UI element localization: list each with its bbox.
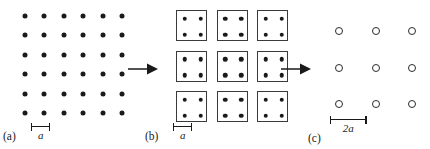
lattice-site-dot <box>182 32 187 37</box>
scale-bar-line <box>31 126 50 127</box>
lattice-site-dot <box>198 97 203 102</box>
lattice-site-dot <box>42 72 47 77</box>
lattice-site-dot <box>198 16 203 21</box>
block-variable-circle <box>408 27 416 35</box>
lattice-site-dot <box>120 91 125 96</box>
block-cell <box>217 91 248 122</box>
lattice-site-dot <box>23 14 28 19</box>
lattice-site-dot <box>263 73 268 78</box>
lattice-site-dot <box>279 16 284 21</box>
lattice-site-dot <box>182 57 187 62</box>
block-variable-circle <box>335 27 343 35</box>
panel-c-renormalized-lattice: 2a (c) <box>290 0 430 149</box>
lattice-site-dot <box>81 14 86 19</box>
lattice-site-dot <box>100 111 105 116</box>
lattice-site-dot <box>239 113 244 118</box>
lattice-site-dot <box>263 32 268 37</box>
block-cell <box>257 10 288 41</box>
lattice-site-dot <box>23 91 28 96</box>
lattice-site-dot <box>23 111 28 116</box>
scale-bar-label-c: 2a <box>330 123 367 134</box>
panel-label-b: (b) <box>145 131 158 143</box>
lattice-site-dot <box>120 111 125 116</box>
panel-a-original-lattice: a (a) <box>0 0 140 149</box>
block-variable-circle <box>335 100 343 108</box>
lattice-site-dot <box>263 97 268 102</box>
lattice-site-dot <box>263 113 268 118</box>
panel-b-blocked-lattice: a (b) <box>140 0 290 149</box>
lattice-site-dot <box>279 57 284 62</box>
lattice-site-dot <box>182 97 187 102</box>
lattice-site-dot <box>182 73 187 78</box>
lattice-site-dot <box>279 113 284 118</box>
lattice-site-dot <box>42 91 47 96</box>
block-variable-circle <box>372 64 380 72</box>
lattice-site-dot <box>120 33 125 38</box>
lattice-site-dot <box>61 33 66 38</box>
lattice-site-dot <box>81 52 86 57</box>
lattice-site-dot <box>223 32 228 37</box>
lattice-site-dot <box>81 91 86 96</box>
block-variable-circle <box>408 64 416 72</box>
lattice-site-dot <box>23 72 28 77</box>
lattice-site-dot <box>198 113 203 118</box>
lattice-site-dot <box>61 72 66 77</box>
lattice-site-dot <box>239 57 244 62</box>
lattice-site-dot <box>198 73 203 78</box>
lattice-site-dot <box>223 97 228 102</box>
block-cell <box>217 10 248 41</box>
block-variable-circle <box>408 100 416 108</box>
panel-label-c: (c) <box>308 133 321 145</box>
lattice-site-dot <box>42 52 47 57</box>
lattice-site-dot <box>81 72 86 77</box>
block-variable-circle <box>372 27 380 35</box>
panel-label-a: (a) <box>3 131 16 143</box>
lattice-site-dot <box>223 57 228 62</box>
block-cell <box>176 10 207 41</box>
lattice-site-dot <box>223 113 228 118</box>
lattice-site-dot <box>100 33 105 38</box>
lattice-site-dot <box>81 33 86 38</box>
lattice-site-dot <box>61 111 66 116</box>
lattice-site-dot <box>100 52 105 57</box>
lattice-site-dot <box>100 72 105 77</box>
lattice-site-dot <box>42 14 47 19</box>
lattice-site-dot <box>42 33 47 38</box>
block-cell <box>217 51 248 82</box>
lattice-site-dot <box>23 52 28 57</box>
lattice-site-dot <box>61 14 66 19</box>
block-cell <box>257 91 288 122</box>
lattice-site-dot <box>182 113 187 118</box>
lattice-site-dot <box>182 16 187 21</box>
scale-bar-line <box>330 119 367 120</box>
lattice-site-dot <box>198 32 203 37</box>
lattice-site-dot <box>100 14 105 19</box>
block-variable-circle <box>372 100 380 108</box>
lattice-site-dot <box>120 72 125 77</box>
lattice-site-dot <box>279 32 284 37</box>
lattice-site-dot <box>239 73 244 78</box>
block-cell <box>176 91 207 122</box>
lattice-site-dot <box>239 32 244 37</box>
lattice-transformation-figure: a (a) a (b) 2a <box>0 0 430 149</box>
scale-bar-label-b: a <box>173 130 192 141</box>
lattice-site-dot <box>263 57 268 62</box>
lattice-site-dot <box>120 14 125 19</box>
lattice-site-dot <box>279 97 284 102</box>
lattice-site-dot <box>263 16 268 21</box>
lattice-site-dot <box>61 91 66 96</box>
scale-bar-label-a: a <box>31 130 50 141</box>
block-variable-circle <box>335 64 343 72</box>
lattice-site-dot <box>223 16 228 21</box>
lattice-site-dot <box>81 111 86 116</box>
lattice-site-dot <box>42 111 47 116</box>
lattice-site-dot <box>223 73 228 78</box>
lattice-site-dot <box>61 52 66 57</box>
block-cell <box>176 51 207 82</box>
lattice-site-dot <box>120 52 125 57</box>
scale-bar-line <box>173 126 192 127</box>
lattice-site-dot <box>100 91 105 96</box>
lattice-site-dot <box>239 97 244 102</box>
lattice-site-dot <box>239 16 244 21</box>
lattice-site-dot <box>198 57 203 62</box>
